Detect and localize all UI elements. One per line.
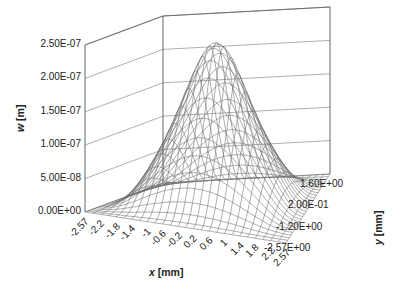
y-tick-label: 1.60E+00 [300,178,343,189]
z-tick-label: 1.50E-07 [40,105,81,116]
y-axis-unit: [mm] [372,211,384,237]
x-axis-title: x [mm] [149,266,183,278]
z-axis-title: w [m] [14,105,26,132]
mesh-line-y [85,183,163,212]
y-tick-label: -2.57E+00 [264,242,310,253]
y-axis-title: y [mm] [372,211,384,245]
x-axis-var: x [149,266,155,278]
z-axis-var: w [14,124,26,132]
plot-walls [85,7,330,212]
x-axis-unit: [mm] [158,266,184,278]
y-tick-label: -1.20E+00 [276,221,322,232]
z-tick-label: 2.00E-07 [40,71,81,82]
z-gridline [85,7,330,45]
y-tick-label: 2.00E-01 [288,199,329,210]
z-tick-label: 5.00E-08 [40,172,81,183]
top-edge [85,7,330,45]
y-axis-var: y [372,239,384,245]
z-tick-label: 2.50E-07 [40,38,81,49]
z-tick-label: 0.00E+00 [38,205,81,216]
z-gridline [85,40,330,78]
mesh-line-x [130,53,311,203]
mesh-line-y [201,58,259,230]
z-tick-label: 1.00E-07 [40,138,81,149]
z-axis-unit: [m] [14,105,26,121]
z-gridline [85,141,330,179]
